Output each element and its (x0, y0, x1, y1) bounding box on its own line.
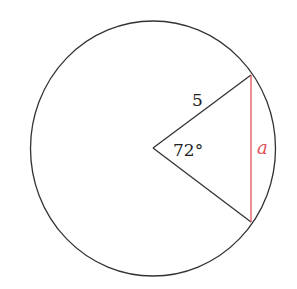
radius-label: 5 (192, 90, 203, 110)
circle-diagram: 5 72° a (0, 0, 297, 289)
radius-upper (153, 75, 251, 148)
chord-label: a (257, 137, 268, 158)
angle-label: 72° (173, 140, 203, 160)
